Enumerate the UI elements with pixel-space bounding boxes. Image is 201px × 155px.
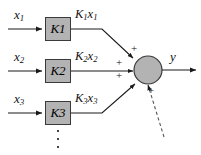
output-label-y: y	[170, 50, 176, 63]
gain-block-3-label: K3	[46, 102, 70, 124]
signal-label-k2x2: K2x2	[75, 50, 97, 64]
gain-block-3[interactable]: K3	[45, 101, 71, 125]
block-diagram: K1 K2 K3 x1 x2 x3 K1x1 K2x2 K3x3 + + + +…	[0, 0, 201, 155]
gain-block-2[interactable]: K2	[45, 59, 71, 83]
input-label-x2: x2	[14, 50, 24, 65]
diagram-canvas	[0, 0, 201, 155]
plus-sign-4: +	[148, 85, 154, 96]
plus-sign-1: +	[131, 43, 137, 54]
input-label-x1: x1	[14, 8, 24, 23]
gain-block-1[interactable]: K1	[45, 17, 71, 41]
signal-label-k1x1: K1x1	[75, 8, 97, 22]
plus-sign-3: +	[116, 70, 122, 81]
gain-block-2-label: K2	[46, 60, 70, 82]
plus-sign-2: +	[116, 57, 122, 68]
summing-node	[134, 56, 162, 84]
input-label-x3: x3	[14, 92, 24, 107]
vertical-ellipsis-icon	[56, 130, 59, 148]
signal-label-k3x3: K3x3	[75, 92, 97, 106]
gain-block-1-label: K1	[46, 18, 70, 40]
